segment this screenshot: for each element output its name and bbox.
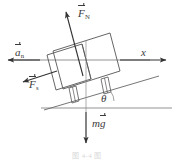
normal-force-arrow (66, 12, 83, 76)
diagram-canvas (0, 0, 174, 164)
incline-angle-arc (111, 92, 114, 101)
normal-force-subscript: N (85, 13, 90, 20)
normal-force-label: FN (78, 8, 90, 21)
block-divider-line (82, 44, 91, 79)
friction-force-subscript: s (36, 84, 39, 91)
physics-free-body-diagram: FN an x Fs θ mg 图 4-4 图 (0, 0, 174, 164)
acceleration-label: an (15, 47, 24, 60)
weight-label: mg (92, 118, 105, 129)
support-right-divider (105, 78, 108, 93)
acceleration-subscript: n (21, 52, 25, 59)
support-left-divider (73, 87, 76, 102)
x-axis-label: x (141, 47, 146, 58)
incline-angle-label: θ (101, 93, 106, 104)
figure-caption: 图 4-4 图 (0, 150, 174, 160)
friction-force-label: Fs (29, 79, 39, 92)
